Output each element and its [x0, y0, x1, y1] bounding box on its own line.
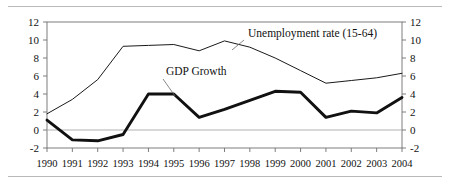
series-line-gdp-growth: [47, 91, 402, 141]
data-series-group: [47, 41, 402, 141]
year-label: 1999: [265, 158, 286, 169]
left-axis-ticks: [43, 22, 47, 148]
right-tick-label: 2: [410, 106, 416, 118]
left-tick-label: 4: [34, 88, 40, 100]
year-label: 2004: [392, 158, 414, 169]
right-tick-label: 0: [410, 124, 416, 136]
year-label: 1994: [138, 158, 160, 169]
annotation-label: Unemployment rate (15-64): [248, 27, 377, 40]
left-tick-label: 6: [34, 70, 40, 82]
year-label: 2000: [290, 158, 311, 169]
left-axis-tick-labels: -2024681012: [28, 16, 40, 154]
year-label: 1998: [239, 158, 260, 169]
chart-figure: -2024681012 -2024681012 1990199119921993…: [0, 0, 450, 184]
left-tick-label: 2: [34, 106, 40, 118]
year-label: 2001: [315, 158, 336, 169]
left-tick-label: 0: [34, 124, 40, 136]
right-tick-label: 12: [410, 16, 421, 28]
line-chart-canvas: -2024681012 -2024681012 1990199119921993…: [0, 0, 450, 184]
year-label: 1993: [113, 158, 134, 169]
right-tick-label: -2: [410, 142, 419, 154]
left-tick-label: 12: [28, 16, 39, 28]
right-tick-label: 6: [410, 70, 416, 82]
year-label: 1991: [62, 158, 83, 169]
left-tick-label: -2: [30, 142, 39, 154]
year-label: 1990: [37, 158, 58, 169]
x-axis-year-labels: 1990199119921993199419951996199719981999…: [37, 158, 414, 169]
right-tick-label: 8: [410, 52, 416, 64]
left-tick-label: 10: [28, 34, 40, 46]
left-tick-label: 8: [34, 52, 40, 64]
year-label: 1997: [214, 158, 235, 169]
x-axis-ticks: [47, 148, 402, 152]
right-axis-ticks: [402, 22, 406, 148]
year-label: 1996: [189, 158, 210, 169]
right-tick-label: 10: [410, 34, 422, 46]
year-label: 1992: [87, 158, 108, 169]
annotation-label: GDP Growth: [166, 65, 227, 77]
year-label: 2003: [366, 158, 387, 169]
year-label: 2002: [341, 158, 362, 169]
year-label: 1995: [163, 158, 184, 169]
series-line-unemployment-rate: [47, 41, 402, 114]
right-axis-tick-labels: -2024681012: [410, 16, 422, 154]
series-annotations: Unemployment rate (15-64)GDP Growth: [163, 27, 377, 96]
right-tick-label: 4: [410, 88, 416, 100]
